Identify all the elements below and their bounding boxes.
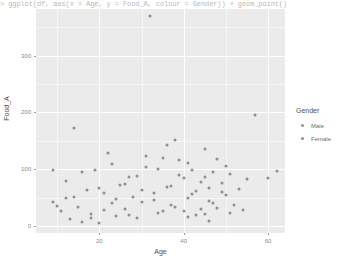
data-point — [64, 197, 67, 200]
data-point — [212, 201, 215, 204]
legend-items: MaleFemale — [296, 119, 348, 145]
data-point — [89, 212, 92, 215]
data-point — [89, 217, 92, 220]
gridline-major-y — [36, 112, 285, 113]
legend-key — [296, 133, 308, 145]
gridline-major-x — [184, 9, 185, 233]
gridline-minor-x — [57, 9, 58, 233]
data-point — [186, 196, 189, 199]
data-point — [220, 191, 223, 194]
data-point — [81, 220, 84, 223]
data-point — [123, 182, 126, 185]
y-tick-label: 100 — [0, 165, 31, 173]
data-point — [186, 216, 189, 219]
data-point — [186, 161, 189, 164]
legend-key — [296, 120, 308, 132]
legend-item[interactable]: Male — [296, 119, 348, 132]
y-tick-mark — [34, 56, 36, 57]
x-tick-mark — [268, 233, 269, 235]
data-point — [216, 206, 219, 209]
data-point — [148, 14, 151, 17]
data-point — [102, 192, 105, 195]
gridline-major-y — [36, 56, 285, 57]
data-point — [140, 189, 143, 192]
data-point — [237, 188, 240, 191]
data-point — [144, 154, 147, 157]
legend-title: Gender — [296, 107, 348, 114]
x-axis-label: Age — [36, 248, 285, 255]
data-point — [216, 157, 219, 160]
gridline-minor-x — [142, 9, 143, 233]
data-point — [51, 169, 54, 172]
gridline-minor-x — [226, 9, 227, 233]
data-point — [170, 203, 173, 206]
gridline-minor-y — [36, 27, 285, 28]
y-tick-label: 300 — [0, 52, 31, 60]
data-point — [127, 176, 130, 179]
data-point — [60, 209, 63, 212]
data-point — [178, 174, 181, 177]
data-point — [212, 171, 215, 174]
x-tick-label: 60 — [253, 237, 283, 245]
gridline-major-x — [99, 9, 100, 233]
data-point — [72, 127, 75, 130]
legend-label: Male — [311, 123, 324, 129]
data-point — [115, 198, 118, 201]
data-point — [208, 220, 211, 223]
legend-dot-icon — [301, 124, 304, 127]
legend-label: Female — [311, 136, 331, 142]
data-point — [136, 175, 139, 178]
data-point — [199, 180, 202, 183]
data-point — [68, 218, 71, 221]
data-point — [246, 177, 249, 180]
y-tick-mark — [34, 169, 36, 170]
data-point — [208, 200, 211, 203]
data-point — [157, 168, 160, 171]
data-point — [199, 207, 202, 210]
data-point — [115, 214, 118, 217]
data-point — [127, 214, 130, 217]
data-point — [191, 193, 194, 196]
legend-item[interactable]: Female — [296, 132, 348, 145]
data-point — [81, 170, 84, 173]
gridline-major-x — [268, 9, 269, 233]
data-point — [174, 205, 177, 208]
data-point — [140, 201, 143, 204]
gridline-major-y — [36, 226, 285, 227]
data-point — [161, 156, 164, 159]
plot-panel — [36, 9, 285, 233]
data-point — [208, 186, 211, 189]
data-point — [275, 170, 278, 173]
data-point — [224, 194, 227, 197]
data-point — [195, 213, 198, 216]
data-point — [203, 147, 206, 150]
data-point — [254, 113, 257, 116]
data-point — [267, 176, 270, 179]
data-point — [174, 138, 177, 141]
gridline-minor-y — [36, 141, 285, 142]
y-tick-mark — [34, 226, 36, 227]
gridline-minor-y — [36, 84, 285, 85]
data-point — [191, 168, 194, 171]
data-point — [102, 208, 105, 211]
data-point — [241, 209, 244, 212]
data-point — [203, 175, 206, 178]
data-point — [110, 162, 113, 165]
data-point — [165, 143, 168, 146]
data-point — [182, 209, 185, 212]
data-point — [72, 196, 75, 199]
data-point — [165, 185, 168, 188]
data-point — [229, 212, 232, 215]
data-point — [94, 169, 97, 172]
data-point — [123, 208, 126, 211]
data-point — [98, 222, 101, 225]
gridline-major-y — [36, 169, 285, 170]
data-point — [144, 166, 147, 169]
data-point — [51, 200, 54, 203]
y-tick-mark — [34, 112, 36, 113]
data-point — [153, 192, 156, 195]
data-point — [106, 152, 109, 155]
data-point — [64, 179, 67, 182]
data-point — [136, 216, 139, 219]
data-point — [233, 204, 236, 207]
